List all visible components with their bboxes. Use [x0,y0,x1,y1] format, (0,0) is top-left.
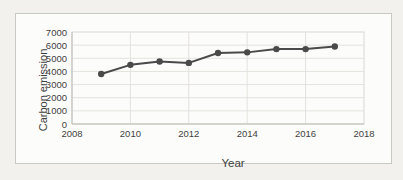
y-tick-label: 3000 [46,79,67,90]
data-point [302,46,308,52]
data-point [156,58,162,64]
data-point [273,46,279,52]
y-tick-label: 6000 [46,40,67,51]
carbon-emission-chart: 0100020003000400050006000700020082010201… [15,13,392,164]
y-tick-label: 7000 [46,27,67,38]
data-point [332,43,338,49]
data-point [215,50,221,56]
x-tick-label: 2014 [237,128,258,139]
plot-area [72,32,364,124]
x-tick-label: 2012 [178,128,199,139]
y-tick-label: 1000 [46,105,67,116]
y-tick-label: 2000 [46,92,67,103]
data-point [127,62,133,68]
data-point [98,71,104,77]
data-point [244,49,250,55]
x-tick-label: 2008 [61,128,82,139]
y-tick-label: 4000 [46,66,67,77]
x-tick-label: 2016 [295,128,316,139]
y-axis-title: Carbon emission [37,49,49,132]
x-tick-label: 2010 [120,128,141,139]
plot-svg: 0100020003000400050006000700020082010201… [16,14,393,165]
x-axis-title: Year [221,157,244,169]
x-tick-label: 2018 [353,128,374,139]
data-point [186,60,192,66]
y-tick-label: 5000 [46,53,67,64]
